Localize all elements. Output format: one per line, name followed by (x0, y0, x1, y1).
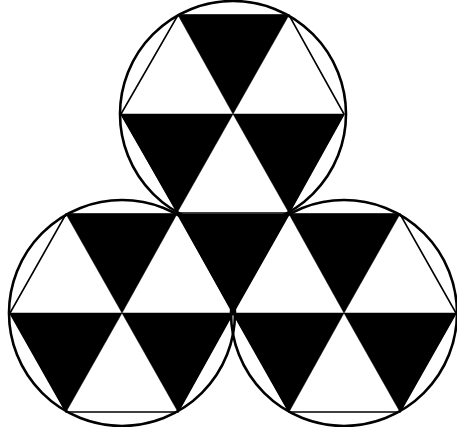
triangle-circle-figure (0, 0, 457, 427)
black-triangle (289, 214, 400, 313)
black-triangle (10, 313, 122, 412)
black-triangle (178, 15, 289, 114)
black-triangle (233, 313, 344, 412)
black-triangle (66, 214, 177, 313)
diagram-canvas: Three circles with inscribed hexagons ti… (0, 0, 457, 427)
black-triangle (344, 313, 456, 412)
black-triangle (122, 313, 233, 412)
black-triangle (233, 114, 344, 213)
black-triangle (121, 114, 233, 213)
